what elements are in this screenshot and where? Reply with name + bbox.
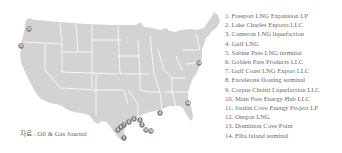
legend-item: 11. Jordan Cove Energy Project LP — [225, 103, 320, 112]
svg-text:13: 13 — [197, 61, 201, 65]
legend-item: 9. Corpus Christi Liquefaction LLC — [225, 85, 320, 94]
svg-text:1: 1 — [123, 136, 125, 140]
svg-text:14: 14 — [186, 101, 190, 105]
marker-13-gulf[interactable]: 13 — [144, 128, 149, 133]
source-caption: 자료 : Oil & Gas Journal — [20, 128, 87, 138]
marker-4[interactable]: 4 — [158, 111, 163, 116]
svg-text:3: 3 — [139, 118, 141, 122]
svg-text:11: 11 — [19, 44, 23, 48]
marker-13[interactable]: 13 — [197, 61, 202, 66]
legend-item: 10. Main Pass Energy Hub LLC — [225, 94, 320, 103]
svg-text:6: 6 — [128, 120, 130, 124]
legend-item: 3. Cameron LNG liquefaction — [225, 29, 320, 38]
svg-text:2: 2 — [141, 123, 143, 127]
legend-item: 12. Oregon LNG — [225, 112, 320, 121]
svg-text:12: 12 — [27, 27, 31, 31]
marker-10[interactable]: 10 — [149, 129, 154, 134]
terminal-legend: 1. Freeport LNG Expansion LP 2. Lake Cha… — [225, 11, 320, 140]
legend-item: 1. Freeport LNG Expansion LP — [225, 11, 320, 20]
svg-text:4: 4 — [159, 111, 161, 115]
marker-14[interactable]: 14 — [186, 101, 191, 106]
legend-item: 4. Gulf LNG — [225, 39, 320, 48]
legend-item: 5. Sabine Pass LNG terminal — [225, 48, 320, 57]
legend-item: 8. Excelerate floating terminal — [225, 75, 320, 84]
marker-12[interactable]: 12 — [27, 27, 32, 32]
legend-item: 13. Dominion Cove Point — [225, 121, 320, 130]
marker-6[interactable]: 6 — [127, 120, 132, 125]
svg-text:10: 10 — [149, 129, 153, 133]
svg-text:9: 9 — [117, 128, 119, 132]
svg-text:5: 5 — [133, 117, 135, 121]
marker-11[interactable]: 11 — [19, 44, 24, 49]
marker-1[interactable]: 1 — [122, 136, 127, 141]
marker-7[interactable]: 7 — [122, 123, 127, 128]
legend-item: 14. Elba Island terminal — [225, 131, 320, 140]
svg-text:13: 13 — [144, 128, 148, 132]
legend-item: 2. Lake Charles Exports LLC — [225, 20, 320, 29]
marker-3[interactable]: 3 — [138, 118, 143, 123]
marker-5[interactable]: 5 — [132, 117, 137, 122]
svg-text:7: 7 — [123, 123, 125, 127]
legend-item: 7. Gulf Coast LNG Export LLC — [225, 66, 320, 75]
legend-item: 6. Golden Pass Products LLC — [225, 57, 320, 66]
marker-2[interactable]: 2 — [140, 123, 145, 128]
